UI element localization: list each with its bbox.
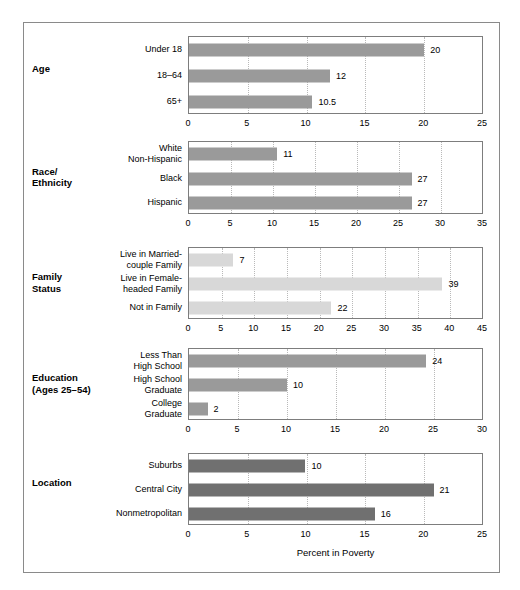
x-tick-label: 35 (412, 323, 422, 333)
x-tick-label: 10 (301, 118, 311, 128)
bar (189, 148, 277, 161)
bar (189, 379, 287, 392)
bar (189, 508, 375, 521)
poverty-chart-figure: Age201210.5Under 1818–6465+0510152025Rac… (23, 22, 500, 573)
x-tick-label: 15 (359, 529, 369, 539)
category-label: 18–64 (22, 70, 182, 81)
x-tick-label: 20 (351, 218, 361, 228)
x-tick-label: 0 (185, 323, 190, 333)
plot-area-0: 201210.5 (188, 36, 483, 114)
x-tick-label: 30 (379, 323, 389, 333)
x-axis-0: 0510152025 (188, 118, 483, 130)
bar-value-label: 10 (311, 462, 321, 471)
x-tick-label: 5 (227, 218, 232, 228)
gridline (441, 142, 443, 213)
x-tick-label: 25 (346, 323, 356, 333)
x-tick-label: 10 (267, 218, 277, 228)
x-tick-label: 0 (185, 529, 190, 539)
x-axis-2: 051015202530354045 (188, 323, 483, 335)
bar-value-label: 10 (293, 381, 303, 390)
bar-value-label: 21 (440, 486, 450, 495)
bar-value-label: 2 (214, 405, 219, 414)
category-label: Live in Married- couple Family (22, 249, 182, 270)
bar (189, 196, 412, 209)
category-label: College Graduate (22, 398, 182, 419)
bar-value-label: 10.5 (318, 98, 336, 107)
category-label: Hispanic (22, 197, 182, 208)
x-tick-label: 10 (281, 424, 291, 434)
bar (189, 484, 434, 497)
bar-value-label: 24 (432, 357, 442, 366)
x-tick-label: 10 (301, 529, 311, 539)
plot-area-3: 24102 (188, 348, 483, 420)
x-tick-label: 0 (185, 118, 190, 128)
bar-value-label: 22 (337, 304, 347, 313)
category-label: White Non-Hispanic (22, 143, 182, 164)
x-tick-label: 0 (185, 218, 190, 228)
category-label: Suburbs (22, 460, 182, 471)
bar-value-label: 27 (418, 174, 428, 183)
x-axis-3: 051015202530 (188, 424, 483, 436)
x-tick-label: 15 (330, 424, 340, 434)
bar (189, 403, 208, 416)
category-label: Nonmetropolitan (22, 508, 182, 519)
category-label: 65+ (22, 96, 182, 107)
x-tick-label: 20 (418, 118, 428, 128)
bar (189, 44, 424, 57)
bar-value-label: 7 (239, 256, 244, 265)
bar-value-label: 27 (418, 198, 428, 207)
x-tick-label: 25 (428, 424, 438, 434)
x-tick-label: 15 (359, 118, 369, 128)
x-tick-label: 25 (477, 118, 487, 128)
x-tick-label: 20 (379, 424, 389, 434)
bar (189, 355, 426, 368)
plot-area-1: 112727 (188, 141, 483, 214)
x-axis-1: 05101520253035 (188, 218, 483, 230)
plot-area-4: 102116 (188, 453, 483, 525)
bar (189, 278, 442, 291)
category-label: Live in Female- headed Family (22, 273, 182, 294)
bar-value-label: 39 (448, 280, 458, 289)
x-tick-label: 30 (477, 424, 487, 434)
bar (189, 302, 331, 315)
plot-area-2: 73922 (188, 247, 483, 319)
category-label: High School Graduate (22, 374, 182, 395)
x-axis-4: 0510152025 (188, 529, 483, 541)
x-tick-label: 0 (185, 424, 190, 434)
axis-title: Percent in Poverty (188, 547, 483, 558)
category-label: Under 18 (22, 44, 182, 55)
x-tick-label: 15 (309, 218, 319, 228)
category-label: Less Than High School (22, 350, 182, 371)
bar-value-label: 12 (336, 72, 346, 81)
x-tick-label: 40 (444, 323, 454, 333)
category-label: Not in Family (22, 302, 182, 313)
bar (189, 254, 233, 267)
bar-value-label: 11 (283, 150, 292, 159)
x-tick-label: 5 (218, 323, 223, 333)
bar (189, 172, 412, 185)
x-tick-label: 25 (393, 218, 403, 228)
x-tick-label: 35 (477, 218, 487, 228)
x-tick-label: 5 (244, 529, 249, 539)
category-label: Black (22, 172, 182, 183)
bar-value-label: 20 (430, 46, 440, 55)
gridline (424, 37, 426, 113)
x-tick-label: 30 (435, 218, 445, 228)
x-tick-label: 45 (477, 323, 487, 333)
bar (189, 460, 305, 473)
x-tick-label: 25 (477, 529, 487, 539)
x-tick-label: 20 (314, 323, 324, 333)
category-label: Central City (22, 484, 182, 495)
bar (189, 70, 330, 83)
x-tick-label: 5 (234, 424, 239, 434)
x-tick-label: 5 (244, 118, 249, 128)
x-tick-label: 20 (418, 529, 428, 539)
x-tick-label: 10 (248, 323, 258, 333)
x-tick-label: 15 (281, 323, 291, 333)
bar (189, 96, 312, 109)
bar-value-label: 16 (381, 510, 391, 519)
